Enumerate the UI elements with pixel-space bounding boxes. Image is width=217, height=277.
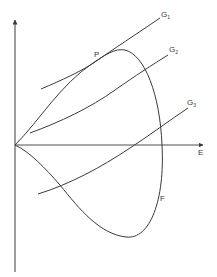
curve-g1 [41, 18, 160, 89]
curve-g2-label: G2 [169, 45, 178, 55]
point-p-label: P [94, 50, 99, 59]
curve-g3-label: G3 [187, 98, 196, 108]
diagram-canvas: E G1 G2 G3 F P [0, 0, 217, 277]
curve-f-label: F [160, 194, 165, 203]
x-axis-label: E [198, 148, 203, 157]
curve-g2 [30, 55, 168, 133]
curve-f [15, 50, 162, 238]
curve-g1-label: G1 [161, 10, 170, 20]
